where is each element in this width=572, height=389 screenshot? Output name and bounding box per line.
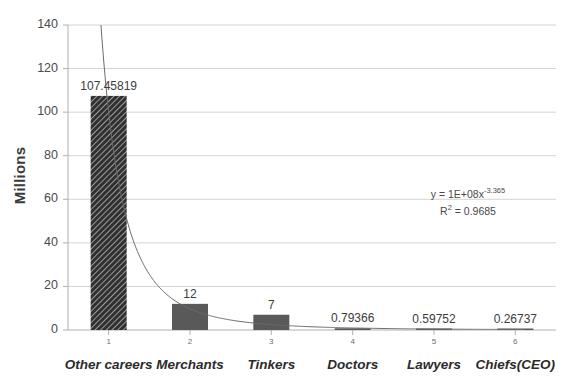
r-squared-superscript: 2 xyxy=(448,203,452,212)
r-squared-value: = 0.9685 xyxy=(455,204,496,216)
trendline-equation-text: y = 1E+08x xyxy=(431,188,484,200)
gridlines-group xyxy=(68,25,556,330)
chart-container: Millions 020406080100120140 123456 107.4… xyxy=(0,0,572,389)
y-tick-label: 80 xyxy=(24,148,58,162)
y-tick-label: 120 xyxy=(24,61,58,75)
trendline-r2-line: R2 = 0.9685 xyxy=(406,201,530,218)
x-tick-label: 4 xyxy=(333,337,373,346)
category-label: Chiefs(CEO) xyxy=(460,357,570,372)
axis-ticks-group xyxy=(63,25,515,335)
bar xyxy=(253,315,289,330)
x-tick-label: 1 xyxy=(89,337,129,346)
trendline-equation-line: y = 1E+08x-3.365 xyxy=(406,184,530,201)
y-tick-label: 100 xyxy=(24,104,58,118)
x-tick-label: 6 xyxy=(495,337,535,346)
trendline-equation-annotation: y = 1E+08x-3.365 R2 = 0.9685 xyxy=(406,184,530,217)
x-tick-label: 3 xyxy=(251,337,291,346)
x-tick-label: 5 xyxy=(414,337,454,346)
bar-value-label: 107.45819 xyxy=(54,79,164,93)
y-tick-label: 0 xyxy=(24,322,58,336)
trendline-exponent: -3.365 xyxy=(484,186,505,195)
y-tick-label: 20 xyxy=(24,278,58,292)
bar xyxy=(172,304,208,330)
bar xyxy=(91,96,127,330)
y-tick-label: 140 xyxy=(24,17,58,31)
trendline-path xyxy=(101,25,525,329)
bar-value-label: 7 xyxy=(216,298,326,312)
y-tick-label: 40 xyxy=(24,235,58,249)
r-squared-label: R xyxy=(440,204,448,216)
x-tick-label: 2 xyxy=(170,337,210,346)
trendline-group xyxy=(101,25,525,329)
y-tick-label: 60 xyxy=(24,191,58,205)
bar-value-label: 0.26737 xyxy=(460,312,570,326)
